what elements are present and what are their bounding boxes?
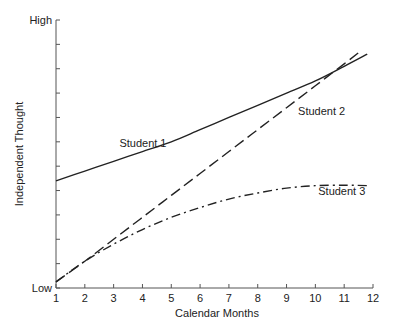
series-label: Student 3 [318,185,365,197]
x-tick-label: 4 [139,292,145,304]
y-axis-title: Independent Thought [13,102,25,206]
series-student-1 [56,54,367,181]
x-tick-label: 12 [367,292,379,304]
line-chart: 123456789101112HighLowCalendar MonthsInd… [0,0,393,332]
x-tick-label: 5 [168,292,174,304]
x-tick-label: 9 [283,292,289,304]
y-label-low: Low [32,282,52,294]
labels: Student 1Student 2Student 3 [119,105,365,197]
x-tick-label: 10 [309,292,321,304]
x-tick-label: 6 [197,292,203,304]
x-tick-label: 3 [111,292,117,304]
series-label: Student 2 [298,105,345,117]
series-label: Student 1 [119,137,166,149]
series-lines [56,50,367,281]
x-tick-label: 11 [338,292,349,304]
x-tick-label: 1 [53,292,59,304]
series-student-2 [56,50,361,281]
x-axis-title: Calendar Months [175,307,259,319]
series-student-3 [56,185,367,282]
x-tick-label: 8 [255,292,261,304]
x-tick-label: 2 [82,292,88,304]
x-tick-label: 7 [226,292,232,304]
y-label-high: High [29,14,52,26]
